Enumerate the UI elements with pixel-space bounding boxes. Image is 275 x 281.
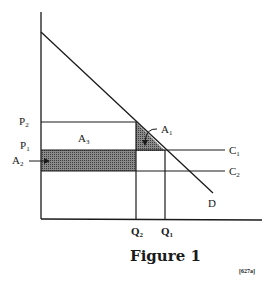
label-a2-main: A: [12, 154, 20, 166]
label-q1-sub: 1: [170, 231, 174, 239]
label-p2-sub: 2: [25, 121, 29, 129]
label-c2-sub: 2: [236, 171, 240, 179]
figure-reference: [627a]: [239, 268, 255, 274]
label-a3: A3: [78, 133, 89, 146]
label-p1: P1: [20, 140, 30, 153]
label-q1: Q1: [161, 226, 173, 239]
label-q2-main: Q: [131, 225, 140, 237]
label-a1-sub: 1: [169, 129, 173, 137]
label-d: D: [208, 198, 216, 209]
label-a2: A2: [12, 155, 23, 168]
label-q2: Q2: [131, 226, 143, 239]
label-q1-main: Q: [161, 225, 170, 237]
label-p1-sub: 1: [26, 145, 30, 153]
label-a1-main: A: [161, 123, 169, 135]
label-c1-sub: 1: [236, 150, 240, 158]
label-c1: C1: [229, 145, 240, 158]
label-a1: A1: [161, 124, 172, 137]
region-a2: [41, 150, 136, 171]
label-a2-sub: 2: [20, 160, 24, 168]
label-p2: P2: [19, 116, 29, 129]
label-q2-sub: 2: [140, 231, 144, 239]
label-a3-sub: 3: [86, 138, 90, 146]
label-d-main: D: [208, 197, 216, 209]
label-a3-main: A: [78, 132, 86, 144]
x-axis: [41, 219, 262, 220]
figure-caption: Figure 1: [130, 247, 201, 265]
label-c2: C2: [229, 166, 240, 179]
